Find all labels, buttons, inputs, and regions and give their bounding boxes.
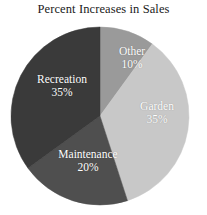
pie-chart-figure: Percent Increases in Sales Other 10% Gar… <box>0 0 207 215</box>
pie-label-garden-value: 35% <box>126 113 188 126</box>
pie-label-recreation-name: Recreation <box>20 73 104 86</box>
pie-label-garden-name: Garden <box>126 100 188 113</box>
pie-label-other-value: 10% <box>104 58 160 71</box>
pie-label-other-name: Other <box>104 45 160 58</box>
pie-label-recreation-value: 35% <box>20 86 104 99</box>
pie-label-garden: Garden 35% <box>126 100 188 126</box>
pie-label-maintenance-value: 20% <box>42 161 134 174</box>
pie-label-maintenance: Maintenance 20% <box>42 148 134 174</box>
pie-label-other: Other 10% <box>104 45 160 71</box>
pie-label-recreation: Recreation 35% <box>20 73 104 99</box>
pie-label-maintenance-name: Maintenance <box>42 148 134 161</box>
